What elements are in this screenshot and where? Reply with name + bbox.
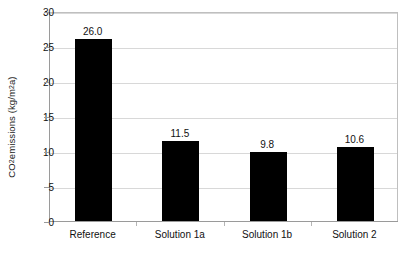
y-tick-mark xyxy=(44,47,49,48)
y-axis-title-mid: emissions (kg/m xyxy=(6,89,17,159)
bar-value-label: 10.6 xyxy=(345,134,364,145)
x-tick-mark xyxy=(224,222,225,226)
y-tick-mark xyxy=(44,222,49,223)
bar xyxy=(250,152,287,221)
bar-value-label: 26.0 xyxy=(83,26,102,37)
x-tick-mark xyxy=(311,222,312,226)
y-tick-mark xyxy=(44,152,49,153)
gridline xyxy=(50,13,397,14)
x-tick-label: Reference xyxy=(70,229,116,240)
y-tick-label: 20 xyxy=(32,77,54,88)
bar xyxy=(337,147,374,221)
bar-value-label: 9.8 xyxy=(260,139,274,150)
plot-area xyxy=(49,12,398,222)
y-tick-label: 5 xyxy=(32,182,54,193)
bar xyxy=(162,141,199,222)
y-axis-title: CO2 emissions (kg/m2a) xyxy=(0,0,22,254)
bar-value-label: 11.5 xyxy=(171,128,190,139)
y-tick-mark xyxy=(44,187,49,188)
x-tick-mark xyxy=(136,222,137,226)
y-tick-mark xyxy=(44,82,49,83)
x-tick-label: Solution 2 xyxy=(332,229,376,240)
y-tick-label: 10 xyxy=(32,147,54,158)
x-tick-label: Solution 1a xyxy=(155,229,205,240)
y-tick-mark xyxy=(44,117,49,118)
bar-chart: CO2 emissions (kg/m2a) 051015202530 26.0… xyxy=(0,0,410,254)
y-axis-title-suffix: a) xyxy=(6,76,17,85)
y-tick-label: 15 xyxy=(32,112,54,123)
y-tick-label: 0 xyxy=(32,217,54,228)
y-tick-label: 25 xyxy=(32,42,54,53)
y-axis-title-prefix: CO xyxy=(6,163,17,177)
y-axis-title-subscript: 2 xyxy=(8,159,15,163)
x-tick-label: Solution 1b xyxy=(242,229,292,240)
y-axis-title-superscript: 2 xyxy=(8,85,15,89)
y-tick-label: 30 xyxy=(32,7,54,18)
y-tick-mark xyxy=(44,12,49,13)
bar xyxy=(75,39,112,221)
